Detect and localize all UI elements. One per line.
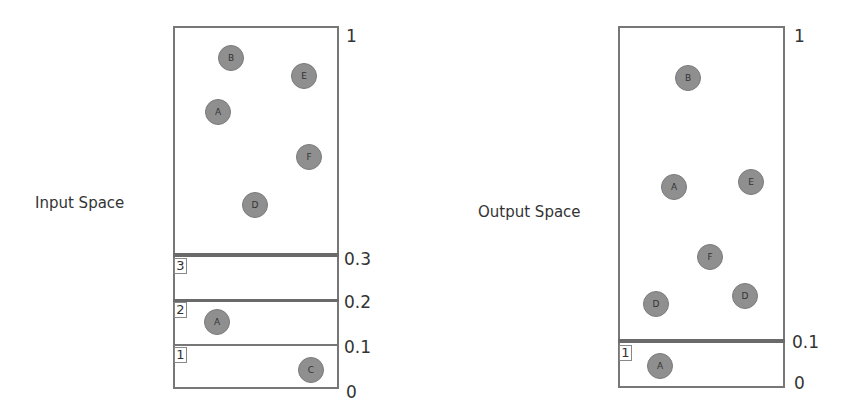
input-point-f: F <box>296 144 322 170</box>
output-point-d-2: D <box>732 283 758 309</box>
output-point-a: A <box>661 174 687 200</box>
output-bucket-label-1: 1 <box>619 345 632 361</box>
input-axis-label-0.3: 0.3 <box>344 251 371 268</box>
input-point-e: E <box>291 63 317 89</box>
input-axis-label-0: 0 <box>346 384 357 401</box>
input-point-a: A <box>205 99 231 125</box>
output-axis-label-0: 0 <box>794 375 805 392</box>
input-axis-label-1: 1 <box>346 28 357 45</box>
output-bucket1-point-a: A <box>647 353 673 379</box>
input-point-b: B <box>218 45 244 71</box>
input-point-d: D <box>242 192 268 218</box>
input-space-title: Input Space <box>35 194 124 212</box>
input-threshold-0.2-line <box>173 299 339 302</box>
output-point-e: E <box>738 169 764 195</box>
output-space-title: Output Space <box>478 203 581 221</box>
input-bucket-label-2: 2 <box>174 302 187 318</box>
output-axis-label-1: 1 <box>794 28 805 45</box>
input-axis-label-0.2: 0.2 <box>344 294 371 311</box>
input-bucket1-point-c: C <box>298 357 324 383</box>
input-bucket2-point-a: A <box>204 309 230 335</box>
output-space-frame <box>618 26 785 388</box>
output-threshold-0.1-line <box>618 339 785 343</box>
output-axis-label-0.1: 0.1 <box>792 334 819 351</box>
input-threshold-0.3-line <box>173 253 339 257</box>
input-axis-label-0.1: 0.1 <box>344 339 371 356</box>
output-point-f: F <box>697 244 723 270</box>
input-bucket-label-3: 3 <box>174 258 187 274</box>
input-threshold-0.1-line <box>173 344 339 346</box>
input-bucket-label-1: 1 <box>174 347 187 363</box>
output-point-b: B <box>675 65 701 91</box>
output-point-d: D <box>643 291 669 317</box>
